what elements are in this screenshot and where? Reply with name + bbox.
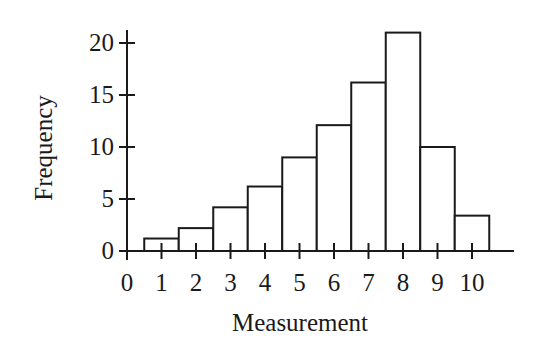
histogram-bar xyxy=(248,187,283,251)
y-tick-label: 20 xyxy=(89,29,114,56)
x-tick-label: 5 xyxy=(293,269,306,296)
x-tick-label: 9 xyxy=(431,269,444,296)
histogram-bar xyxy=(351,83,386,251)
x-tick-label: 0 xyxy=(121,269,134,296)
histogram-bar xyxy=(282,157,317,251)
x-axis-label: Measurement xyxy=(232,309,368,336)
x-tick-label: 7 xyxy=(362,269,375,296)
y-tick-label: 10 xyxy=(89,133,114,160)
histogram-chart: 05101520 012345678910 Measurement Freque… xyxy=(0,0,534,350)
x-tick-label: 10 xyxy=(460,269,485,296)
y-tick-label: 5 xyxy=(102,185,115,212)
y-axis-label: Frequency xyxy=(30,95,57,201)
bars-group xyxy=(144,33,489,251)
x-tick-label: 4 xyxy=(259,269,272,296)
x-tick-label: 6 xyxy=(328,269,341,296)
x-tick-label: 3 xyxy=(224,269,237,296)
y-tick-label: 0 xyxy=(102,237,115,264)
x-tick-label: 8 xyxy=(397,269,410,296)
x-tick-label: 1 xyxy=(155,269,168,296)
x-axis: 012345678910 xyxy=(119,243,514,296)
y-tick-label: 15 xyxy=(89,81,114,108)
x-tick-label: 2 xyxy=(190,269,203,296)
y-axis: 05101520 xyxy=(89,29,135,264)
histogram-bar xyxy=(386,33,421,251)
histogram-bar xyxy=(420,147,455,251)
histogram-bar xyxy=(317,125,352,251)
